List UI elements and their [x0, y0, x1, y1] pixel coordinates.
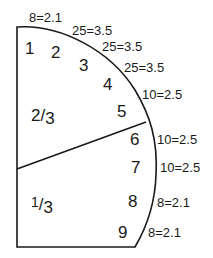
- measurement-label: 10=2.5: [142, 88, 182, 101]
- region-1-label: 1: [25, 40, 34, 57]
- divider-line: [17, 122, 146, 169]
- fraction-slash: /: [39, 195, 44, 214]
- measurement-label: 10=2.5: [157, 133, 197, 146]
- region-7-label: 7: [131, 159, 140, 176]
- region-8-label: 8: [128, 193, 137, 210]
- measurement-label: 10=2.5: [160, 161, 200, 174]
- fraction-lower: 1/3: [31, 196, 53, 213]
- fraction-upper: 2/3: [31, 107, 55, 124]
- region-2-label: 2: [51, 44, 60, 61]
- region-9-label: 9: [118, 224, 127, 241]
- region-3-label: 3: [79, 57, 88, 74]
- measurement-label: 8=2.1: [157, 196, 190, 209]
- measurement-label: 25=3.5: [72, 24, 112, 37]
- measurement-label: 8=2.1: [29, 11, 62, 24]
- region-5-label: 5: [117, 103, 126, 120]
- fraction-lower-num: 1: [31, 194, 39, 210]
- diagram-canvas: 1 2 3 4 5 6 7 8 9 2/3 1/3 8=2.1 25=3.5 2…: [0, 0, 213, 258]
- measurement-label: 25=3.5: [124, 61, 164, 74]
- region-6-label: 6: [130, 131, 139, 148]
- fraction-upper-den: 3: [45, 109, 54, 128]
- region-4-label: 4: [103, 76, 112, 93]
- measurement-label: 8=2.1: [148, 226, 181, 239]
- fraction-lower-den: 3: [44, 198, 53, 217]
- measurement-label: 25=3.5: [102, 40, 142, 53]
